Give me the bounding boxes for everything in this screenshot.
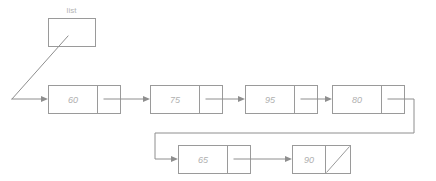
list-node-75: 75 [151,86,246,114]
node-value: 95 [265,95,276,105]
node-value: 60 [68,95,78,105]
node-box [293,146,351,174]
node-value: 80 [352,95,362,105]
arrowhead-icon [238,96,245,102]
list-node-60: 60 [49,86,151,114]
diagram-canvas: list 60 75 95 [0,0,436,181]
list-node-90: 90 [293,146,351,174]
linked-list-diagram: list 60 75 95 [0,0,436,181]
list-node-65: 65 [179,146,293,174]
arrowhead-icon [171,156,178,162]
head-pointer-box [49,19,96,47]
arrowhead-icon [325,96,332,102]
arrowhead-icon [143,96,150,102]
arrowhead-icon [41,96,48,102]
arrowhead-icon [285,156,292,162]
node-value: 75 [170,95,181,105]
list-node-95: 95 [246,86,333,114]
head-pointer-label: list [67,6,78,15]
node-value: 65 [198,155,209,165]
node-value: 90 [304,155,314,165]
